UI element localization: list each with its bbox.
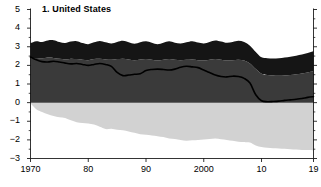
x-tick-label: 90 (126, 164, 166, 174)
y-tick-label: 5 (4, 4, 20, 14)
x-tick-label: 80 (68, 164, 108, 174)
y-tick-label: 2 (4, 59, 20, 69)
area-negative-band (31, 103, 314, 151)
y-tick-label: 4 (4, 22, 20, 32)
y-tick-label: 3 (4, 41, 20, 51)
y-tick-label: −3 (4, 153, 20, 163)
x-tick-label: 1970 (11, 164, 51, 174)
y-tick-label: 0 (4, 97, 20, 107)
x-tick-label: 2000 (184, 164, 224, 174)
x-tick-label: 19 (294, 164, 321, 174)
chart-canvas (0, 0, 321, 187)
x-tick-label: 10 (242, 164, 282, 174)
chart-figure: 1. United States −3−2−101234519708090200… (0, 0, 321, 187)
y-tick-label: 1 (4, 78, 20, 88)
y-tick-label: −1 (4, 115, 20, 125)
y-tick-label: −2 (4, 134, 20, 144)
